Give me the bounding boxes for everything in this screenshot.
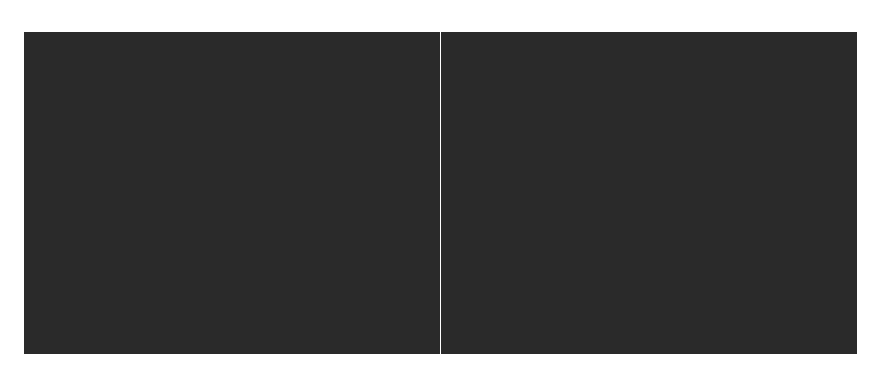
antialiased-scene-image [441, 32, 857, 354]
antialiased-render-panel [441, 32, 857, 354]
aliased-render-panel [24, 32, 440, 354]
aliased-scene-image [24, 32, 440, 354]
